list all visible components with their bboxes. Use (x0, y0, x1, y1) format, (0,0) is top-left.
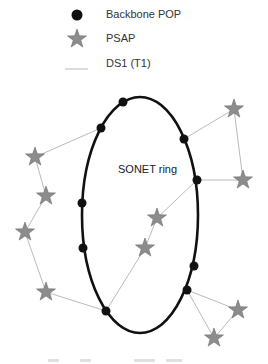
cropped-caption-fragment (0, 356, 268, 364)
backbone-pop-legend-icon (72, 10, 83, 21)
backbone-pop-node (119, 98, 128, 107)
backbone-pop-node (183, 286, 192, 295)
backbone-pop-node (193, 176, 202, 185)
legend-label-ds1: DS1 (T1) (106, 57, 151, 69)
sonet-ring-diagram (0, 0, 268, 364)
psap-star-icon (25, 147, 44, 165)
backbone-pop-node (180, 135, 189, 144)
psap-star-icon (36, 186, 55, 204)
psap-star-icon (15, 222, 34, 240)
psap-star-icon (233, 170, 252, 188)
backbone-pop-node (102, 307, 111, 316)
backbone-pop-node (190, 262, 199, 271)
psap-star-icon (147, 208, 166, 226)
sonet-ring (82, 97, 198, 333)
psap-star-icon (36, 282, 55, 300)
sonet-ring-label: SONET ring (118, 163, 177, 175)
backbone-pop-node (78, 199, 87, 208)
legend-label-backbone-pop: Backbone POP (106, 8, 181, 20)
psaps (15, 99, 252, 346)
legend-label-psap: PSAP (106, 32, 135, 44)
psap-legend-icon (67, 29, 86, 47)
legend (65, 10, 88, 70)
psap-star-icon (224, 99, 243, 117)
psap-star-icon (135, 238, 154, 256)
backbone-pop-node (97, 124, 106, 133)
backbone-pop-node (79, 244, 88, 253)
ds1-links (25, 109, 243, 338)
psap-star-icon (228, 300, 247, 318)
